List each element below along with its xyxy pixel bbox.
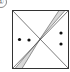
dot-3 (59, 42, 62, 45)
dot-0 (18, 38, 21, 41)
dot-1 (27, 38, 30, 41)
shaded-sliver-top (40, 11, 65, 40)
dot-2 (59, 31, 62, 34)
square-diagram (0, 0, 70, 72)
